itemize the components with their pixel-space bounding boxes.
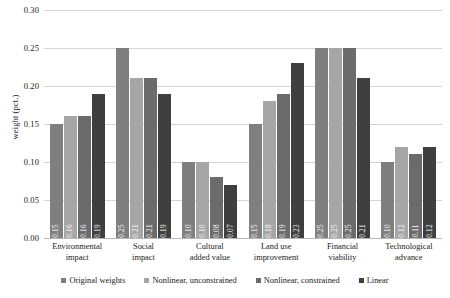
category-label-line: impact	[111, 253, 175, 264]
x-axis-line	[44, 238, 442, 239]
bar: 0.19	[158, 94, 171, 238]
legend-item[interactable]: Nonlinear, unconstrained	[144, 276, 236, 285]
bar: 0.18	[263, 101, 276, 238]
bar: 0.19	[92, 94, 105, 238]
bar-value-label: 0.21	[146, 224, 154, 237]
bar: 0.07	[224, 185, 237, 238]
bar: 0.16	[78, 116, 91, 238]
bar: 0.10	[381, 162, 394, 238]
legend-label: Nonlinear, unconstrained	[152, 276, 236, 285]
plot-area: 0.300.250.200.150.100.050.00 0.150.160.1…	[44, 10, 442, 238]
y-axis-title: weight (pct.)	[10, 72, 20, 162]
bar: 0.23	[291, 63, 304, 238]
legend-label: Original weights	[69, 276, 125, 285]
bar-value-label: 0.23	[293, 224, 301, 237]
bar: 0.21	[357, 78, 370, 238]
bar-value-label: 0.16	[66, 224, 74, 237]
bar-value-label: 0.15	[251, 224, 259, 237]
bar-value-label: 0.21	[359, 224, 367, 237]
bar-value-label: 0.11	[412, 224, 420, 237]
bar-group: 0.150.180.190.23	[243, 10, 309, 238]
legend-item[interactable]: Original weights	[61, 276, 125, 285]
legend-swatch-icon	[144, 278, 149, 283]
bar: 0.21	[130, 78, 143, 238]
category-label-line: Financial	[310, 242, 374, 253]
category-label-line: Environmental	[45, 242, 109, 253]
bar: 0.08	[210, 177, 223, 238]
bar-value-label: 0.08	[213, 224, 221, 237]
bar-groups: 0.150.160.160.190.250.210.210.190.100.10…	[44, 10, 442, 238]
bar-value-label: 0.21	[132, 224, 140, 237]
bar: 0.12	[395, 147, 408, 238]
y-tick-label: 0.30	[24, 5, 39, 15]
x-axis-category-labels: EnvironmentalimpactSocialimpactCulturala…	[44, 242, 442, 263]
bar: 0.15	[50, 124, 63, 238]
bar-value-label: 0.18	[265, 224, 273, 237]
y-tick-label: 0.20	[24, 81, 39, 91]
bar-value-label: 0.10	[185, 224, 193, 237]
bar-group: 0.100.100.080.07	[177, 10, 243, 238]
bar-value-label: 0.15	[52, 224, 60, 237]
bar: 0.16	[64, 116, 77, 238]
y-tick-label: 0.00	[24, 233, 39, 243]
y-tick-label: 0.15	[24, 119, 39, 129]
category-label: Technologicaladvance	[376, 242, 442, 263]
bar-value-label: 0.07	[227, 224, 235, 237]
bar-group: 0.250.250.250.21	[309, 10, 375, 238]
bar: 0.25	[343, 48, 356, 238]
bar-value-label: 0.25	[317, 224, 325, 237]
y-tick-label: 0.25	[24, 43, 39, 53]
category-label-line: added value	[178, 253, 242, 264]
category-label-line: Land use	[244, 242, 308, 253]
bar: 0.10	[182, 162, 195, 238]
bar-value-label: 0.25	[345, 224, 353, 237]
bar-value-label: 0.12	[426, 224, 434, 237]
category-label: Environmentalimpact	[44, 242, 110, 263]
bar: 0.19	[277, 94, 290, 238]
bar-group: 0.150.160.160.19	[44, 10, 110, 238]
bar-group: 0.100.120.110.12	[376, 10, 442, 238]
legend-label: Linear	[367, 276, 389, 285]
bar-value-label: 0.16	[80, 224, 88, 237]
category-label: Culturaladded value	[177, 242, 243, 263]
bar-value-label: 0.19	[279, 224, 287, 237]
category-label-line: Cultural	[178, 242, 242, 253]
legend-swatch-icon	[61, 278, 66, 283]
bar: 0.25	[329, 48, 342, 238]
bar: 0.12	[423, 147, 436, 238]
bar: 0.21	[144, 78, 157, 238]
bar-value-label: 0.12	[398, 224, 406, 237]
category-label: Financialviability	[309, 242, 375, 263]
bar-value-label: 0.10	[199, 224, 207, 237]
bar: 0.10	[196, 162, 209, 238]
bar: 0.25	[116, 48, 129, 238]
category-label-line: Technological	[377, 242, 441, 253]
legend-swatch-icon	[359, 278, 364, 283]
category-label-line: Social	[111, 242, 175, 253]
bar-chart: weight (pct.) 0.300.250.200.150.100.050.…	[0, 0, 450, 298]
category-label-line: improvement	[244, 253, 308, 264]
category-label-line: advance	[377, 253, 441, 264]
legend-item[interactable]: Nonlinear, constrained	[256, 276, 340, 285]
bar: 0.25	[315, 48, 328, 238]
bar: 0.11	[409, 154, 422, 238]
bar: 0.15	[249, 124, 262, 238]
bar-value-label: 0.19	[160, 224, 168, 237]
y-tick-label: 0.05	[24, 195, 39, 205]
bar-value-label: 0.25	[118, 224, 126, 237]
bar-value-label: 0.25	[331, 224, 339, 237]
category-label-line: impact	[45, 253, 109, 264]
bar-value-label: 0.10	[384, 224, 392, 237]
legend-item[interactable]: Linear	[359, 276, 389, 285]
bar-value-label: 0.19	[94, 224, 102, 237]
category-label-line: viability	[310, 253, 374, 264]
legend-swatch-icon	[256, 278, 261, 283]
bar-group: 0.250.210.210.19	[110, 10, 176, 238]
legend-label: Nonlinear, constrained	[264, 276, 340, 285]
category-label: Land useimprovement	[243, 242, 309, 263]
category-label: Socialimpact	[110, 242, 176, 263]
y-tick-label: 0.10	[24, 157, 39, 167]
legend: Original weightsNonlinear, unconstrained…	[0, 276, 450, 285]
